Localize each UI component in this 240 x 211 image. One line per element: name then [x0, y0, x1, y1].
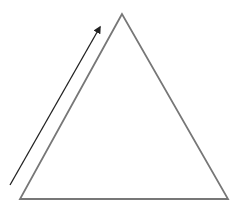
diagram-canvas	[0, 0, 240, 211]
direction-arrow	[10, 27, 100, 185]
triangle	[20, 14, 228, 199]
